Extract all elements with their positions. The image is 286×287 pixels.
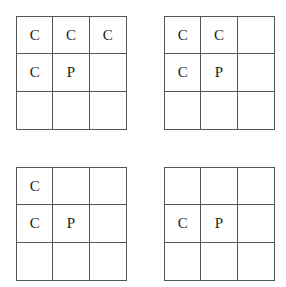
grid-cell [238, 17, 274, 54]
grid-cell: C [17, 54, 53, 91]
grid-cell [201, 92, 237, 129]
grid-cell [90, 92, 126, 129]
grid-cell [238, 92, 274, 129]
grid-cell [17, 92, 53, 129]
grid-cell [90, 243, 126, 280]
grid-cell: C [165, 205, 201, 242]
grid-1: C C C C P [16, 16, 127, 130]
grid-cell [201, 243, 237, 280]
grid-cell: P [53, 54, 89, 91]
grid-cell [238, 243, 274, 280]
grid-cell [53, 243, 89, 280]
grid-cell [238, 168, 274, 205]
grid-cell: C [165, 54, 201, 91]
grid-cell: C [201, 17, 237, 54]
grid-cell [238, 54, 274, 91]
grid-cell [90, 168, 126, 205]
grid-cell [90, 205, 126, 242]
grid-cell [165, 168, 201, 205]
grid-cell: C [17, 205, 53, 242]
grid-cell: C [90, 17, 126, 54]
grid-cell [165, 92, 201, 129]
grid-4: C P [164, 167, 275, 281]
grid-2: C C C P [164, 16, 275, 130]
grid-cell: C [53, 17, 89, 54]
grid-cell [17, 243, 53, 280]
grid-cell: C [165, 17, 201, 54]
grid-cell: P [201, 54, 237, 91]
grid-cell [53, 168, 89, 205]
grid-cell: C [17, 17, 53, 54]
grid-cell [53, 92, 89, 129]
grid-cell: P [53, 205, 89, 242]
grid-3: C C P [16, 167, 127, 281]
grid-cell [238, 205, 274, 242]
grid-cell [165, 243, 201, 280]
grid-cell [201, 168, 237, 205]
grid-cell: C [17, 168, 53, 205]
grid-cell: P [201, 205, 237, 242]
grid-cell [90, 54, 126, 91]
